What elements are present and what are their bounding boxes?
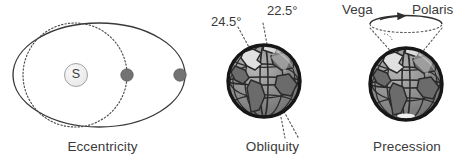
milankovitch-cycles-figure: S Eccentricity: [0, 0, 474, 162]
panel-precession: Vega Polaris Precession: [340, 0, 474, 162]
eccentricity-diagram: [0, 0, 205, 140]
rotation-arrow: [380, 16, 402, 20]
earth-globe: [228, 40, 300, 117]
star-label-vega: Vega: [342, 2, 373, 17]
precession-diagram: [340, 0, 474, 140]
obliquity-angle-high: 24.5°: [211, 14, 242, 29]
panel-eccentricity: S Eccentricity: [0, 0, 205, 162]
planet-marker-outer: [174, 69, 186, 81]
sun-label: S: [68, 67, 84, 81]
earth-globe: [370, 43, 442, 120]
caption-eccentricity: Eccentricity: [0, 139, 205, 154]
solid-ellipse-orbit: [13, 23, 185, 127]
panel-obliquity: 24.5° 22.5° Obliquity: [205, 0, 340, 162]
precession-apex-angle-icon: [384, 34, 392, 40]
obliquity-angle-low: 22.5°: [267, 3, 298, 18]
caption-precession: Precession: [340, 139, 474, 154]
caption-obliquity: Obliquity: [205, 139, 340, 154]
star-label-polaris: Polaris: [412, 2, 453, 17]
precession-ellipse-front: [370, 24, 442, 33]
planet-marker-inner: [121, 69, 133, 81]
